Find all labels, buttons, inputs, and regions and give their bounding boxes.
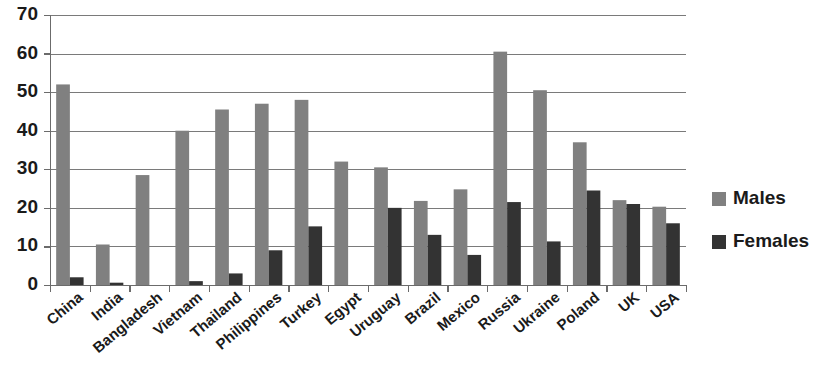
x-tick-label-china: China bbox=[43, 288, 86, 328]
bar-males-egypt bbox=[334, 162, 348, 285]
x-tick-label-poland: Poland bbox=[553, 288, 602, 333]
y-tick-labels: 010203040506070 bbox=[17, 3, 38, 294]
bar-males-usa bbox=[652, 207, 666, 285]
y-tick-label: 50 bbox=[17, 80, 38, 101]
bar-females-india bbox=[110, 283, 124, 285]
x-tick-label-mexico: Mexico bbox=[433, 288, 483, 334]
bar-females-turkey bbox=[308, 226, 322, 285]
bar-females-ukraine bbox=[547, 241, 561, 285]
bar-males-mexico bbox=[454, 189, 468, 285]
y-tick-label: 60 bbox=[17, 42, 38, 63]
bar-females-poland bbox=[587, 191, 601, 286]
bar-males-uk bbox=[613, 200, 627, 285]
legend-label-females: Females bbox=[733, 230, 809, 251]
bar-chart: 010203040506070 ChinaIndiaBangladeshViet… bbox=[0, 0, 828, 388]
chart-canvas: 010203040506070 ChinaIndiaBangladeshViet… bbox=[0, 0, 828, 388]
bar-females-usa bbox=[666, 223, 680, 285]
bar-females-philippines bbox=[269, 250, 283, 285]
x-tick-label-uk: UK bbox=[615, 288, 643, 315]
bar-females-uruguay bbox=[388, 208, 402, 285]
bar-females-brazil bbox=[428, 235, 442, 285]
bar-females-vietnam bbox=[189, 281, 203, 285]
y-axis bbox=[44, 15, 51, 286]
bar-females-uk bbox=[626, 204, 640, 285]
bar-males-china bbox=[56, 84, 70, 285]
x-tick-label-turkey: Turkey bbox=[277, 288, 325, 332]
y-tick-label: 40 bbox=[17, 119, 38, 140]
x-tick-label-usa: USA bbox=[647, 288, 682, 321]
bar-males-vietnam bbox=[175, 131, 189, 285]
x-tick-labels: ChinaIndiaBangladeshVietnamThailandPhili… bbox=[43, 288, 682, 356]
bar-males-poland bbox=[573, 142, 587, 285]
bar-males-turkey bbox=[295, 100, 309, 285]
y-tick-label: 20 bbox=[17, 196, 38, 217]
bar-males-india bbox=[96, 245, 110, 286]
bar-males-thailand bbox=[215, 110, 229, 286]
bar-males-philippines bbox=[255, 104, 269, 285]
bars bbox=[56, 52, 680, 285]
y-tick-label: 70 bbox=[17, 3, 38, 24]
bar-females-mexico bbox=[467, 255, 481, 285]
bar-females-china bbox=[70, 277, 84, 285]
legend-label-males: Males bbox=[733, 187, 786, 208]
legend-swatch-males bbox=[712, 192, 726, 206]
legend-swatch-females bbox=[712, 235, 726, 249]
bar-males-brazil bbox=[414, 201, 428, 285]
bar-males-ukraine bbox=[533, 90, 547, 285]
y-tick-label: 30 bbox=[17, 157, 38, 178]
bar-females-thailand bbox=[229, 273, 243, 285]
bar-males-uruguay bbox=[374, 167, 388, 285]
y-tick-label: 10 bbox=[17, 234, 38, 255]
bar-females-russia bbox=[507, 202, 521, 285]
bar-males-russia bbox=[493, 52, 507, 285]
bar-males-bangladesh bbox=[136, 175, 150, 285]
y-tick-label: 0 bbox=[27, 273, 38, 294]
chart-legend: MalesFemales bbox=[712, 187, 809, 251]
